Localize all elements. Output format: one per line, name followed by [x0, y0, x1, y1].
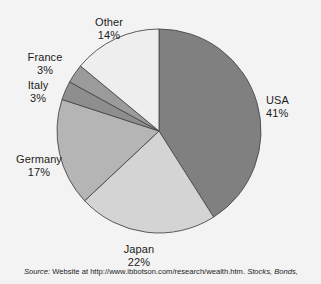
- pie-label-other-name: Other: [78, 16, 140, 29]
- pie-label-usa-percent: 41%: [266, 107, 320, 120]
- pie-label-france-percent: 3%: [14, 64, 76, 77]
- source-body: Website at http://www.ibbotson.com/resea…: [52, 267, 245, 276]
- pie-label-italy-percent: 3%: [14, 92, 62, 105]
- pie-label-france-name: France: [14, 51, 76, 64]
- pie-label-japan-name: Japan: [108, 243, 170, 256]
- pie-chart-canvas: [0, 0, 321, 284]
- pie-label-germany-name: Germany: [2, 153, 76, 166]
- source-italic-tail: Stocks, Bonds,: [247, 267, 298, 276]
- source-prefix: Source:: [24, 267, 50, 276]
- pie-label-germany: Germany 17%: [2, 153, 76, 178]
- pie-label-france: France 3%: [14, 51, 76, 76]
- pie-label-italy-name: Italy: [14, 79, 62, 92]
- pie-label-usa: USA 41%: [266, 94, 320, 119]
- pie-label-japan: Japan 22%: [108, 243, 170, 268]
- pie-label-germany-percent: 17%: [2, 166, 76, 179]
- pie-label-other-percent: 14%: [78, 29, 140, 42]
- pie-slice-group: [57, 29, 261, 233]
- pie-chart-figure: Other 14% France 3% Italy 3% Germany 17%…: [0, 0, 321, 284]
- source-note: Source: Website at http://www.ibbotson.c…: [24, 267, 320, 276]
- pie-label-other: Other 14%: [78, 16, 140, 41]
- pie-label-italy: Italy 3%: [14, 79, 62, 104]
- pie-label-usa-name: USA: [266, 94, 320, 107]
